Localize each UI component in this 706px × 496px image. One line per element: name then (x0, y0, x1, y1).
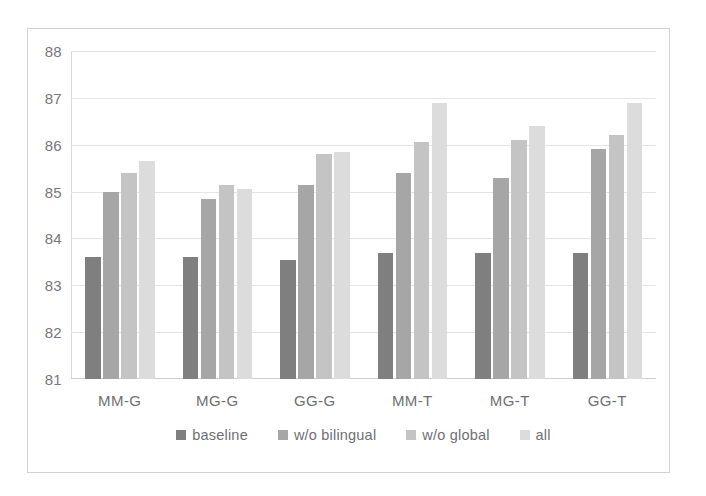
bar[interactable] (121, 173, 137, 379)
y-axis-tick-label: 83 (45, 277, 62, 294)
legend-swatch-icon (278, 430, 288, 440)
gridline (71, 192, 656, 193)
y-axis-tick-label: 86 (45, 136, 62, 153)
legend-swatch-icon (520, 430, 530, 440)
plot-area: 8182838485868788MM-GMG-GGG-GMM-TMG-TGG-T (71, 51, 656, 379)
bar[interactable] (280, 260, 296, 379)
bar[interactable] (591, 149, 607, 379)
y-axis-tick-label: 87 (45, 89, 62, 106)
gridline (71, 332, 656, 333)
bar[interactable] (316, 154, 332, 379)
bar[interactable] (432, 103, 448, 379)
legend-item[interactable]: w/o bilingual (278, 427, 376, 443)
bar[interactable] (396, 173, 412, 379)
gridline (71, 51, 656, 52)
bar[interactable] (378, 253, 394, 380)
y-axis-tick-label: 82 (45, 324, 62, 341)
legend-item-label: baseline (192, 427, 248, 443)
bar[interactable] (201, 199, 217, 379)
y-axis-tick-label: 84 (45, 230, 62, 247)
y-axis-tick-label: 85 (45, 183, 62, 200)
legend-item-label: w/o global (422, 427, 489, 443)
bar[interactable] (414, 142, 430, 379)
bar[interactable] (298, 185, 314, 379)
legend-item-label: w/o bilingual (294, 427, 376, 443)
bar[interactable] (493, 178, 509, 379)
bar[interactable] (183, 257, 199, 379)
bar[interactable] (511, 140, 527, 379)
legend-swatch-icon (176, 430, 186, 440)
legend-item-label: all (536, 427, 551, 443)
legend-swatch-icon (406, 430, 416, 440)
x-axis-tick-label: MM-T (392, 392, 433, 409)
bar[interactable] (627, 103, 643, 379)
x-axis-tick-label: GG-T (588, 392, 627, 409)
x-axis-tick-label: MG-G (196, 392, 238, 409)
x-axis-tick-label: MM-G (98, 392, 141, 409)
gridline (71, 238, 656, 239)
bar-chart: 8182838485868788MM-GMG-GGG-GMM-TMG-TGG-T… (28, 29, 669, 472)
gridline (71, 145, 656, 146)
bar[interactable] (85, 257, 101, 379)
x-axis-line (71, 378, 656, 379)
bar[interactable] (609, 135, 625, 379)
legend-item[interactable]: w/o global (406, 427, 489, 443)
gridline (71, 98, 656, 99)
legend-item[interactable]: all (520, 427, 551, 443)
bar[interactable] (103, 192, 119, 379)
figure-frame: 8182838485868788MM-GMG-GGG-GMM-TMG-TGG-T… (27, 28, 670, 473)
bar[interactable] (219, 185, 235, 379)
gridline (71, 285, 656, 286)
bar[interactable] (237, 189, 253, 379)
bar[interactable] (573, 253, 589, 380)
bar[interactable] (475, 253, 491, 380)
chart-legend: baselinew/o bilingualw/o globalall (71, 427, 656, 443)
y-axis-tick-label: 88 (45, 43, 62, 60)
legend-item[interactable]: baseline (176, 427, 248, 443)
y-axis-tick-label: 81 (45, 371, 62, 388)
x-axis-tick-label: MG-T (490, 392, 530, 409)
x-axis-tick-label: GG-G (294, 392, 336, 409)
bar[interactable] (529, 126, 545, 379)
bar[interactable] (139, 161, 155, 379)
bar[interactable] (334, 152, 350, 379)
y-axis-line (71, 51, 72, 379)
